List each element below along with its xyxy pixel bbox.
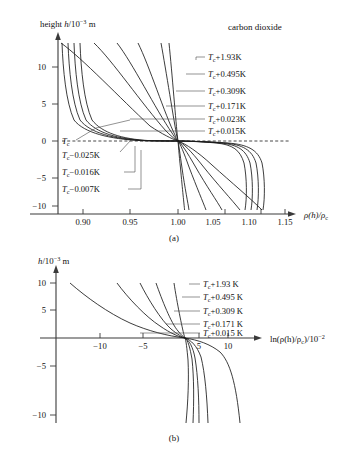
- panel-a-xtick-1-10: 1.10: [241, 217, 256, 227]
- curve-b-tc-plus-1-93: [70, 283, 240, 423]
- panel-a-ylabel: height h/10−3 m: [40, 18, 96, 29]
- panel-b-xtick-neg10: −10: [93, 341, 106, 351]
- panel-b-legend: Tc+1.93 K Tc+0.495 K Tc+0.309 K Tc+0.171…: [140, 279, 244, 339]
- legend-a-tc-minus-0-025: Tc−0.025K: [62, 140, 131, 161]
- legend-a-label-4: Tc+0.023K: [208, 114, 247, 125]
- panel-a-caption: (a): [169, 233, 179, 243]
- legend-a-label-2: Tc+0.309K: [208, 86, 247, 97]
- legend-b-item-2: Tc+0.309 K: [174, 306, 244, 317]
- legend-a-label-tc-minus-0-007: Tc−0.007K: [62, 184, 101, 195]
- panel-b-caption: (b): [169, 433, 179, 443]
- panel-a-xtick-1-05: 1.05: [205, 217, 220, 227]
- panel-b: h/10−3 m 10 5 −5 −10: [0, 245, 348, 463]
- panel-b-ytick-neg5: −5: [37, 361, 46, 371]
- curve-a-tc-plus-0-171: [138, 43, 206, 210]
- panel-a-ytick-neg10: −10: [33, 201, 46, 211]
- legend-b-item-1: Tc+0.495 K: [182, 292, 244, 303]
- panel-b-xtick-neg5: −5: [138, 341, 147, 351]
- panel-b-xlabel: ln(ρ(h)/ρc)/10−2: [270, 333, 325, 346]
- legend-a-item-1: Tc+0.495K: [186, 69, 247, 80]
- legend-b-label-0: Tc+1.93 K: [203, 279, 240, 290]
- panel-a-xtick-0-95: 0.95: [122, 217, 137, 227]
- legend-a-item-0: Tc+1.93K: [196, 52, 242, 63]
- panel-b-ytick-neg10: −10: [33, 410, 46, 420]
- legend-a-item-2: Tc+0.309K: [176, 86, 247, 97]
- panel-a-plot: carbon dioxide height h/10−3 m 10: [0, 0, 348, 245]
- panel-a-ytick-5: 5: [42, 99, 46, 109]
- curve-b-tc-plus-0-309: [140, 283, 199, 423]
- panel-a-xtick-0-90: 0.90: [75, 217, 90, 227]
- legend-a-item-3: Tc+0.171K: [166, 101, 247, 112]
- legend-b-label-2: Tc+0.309 K: [203, 306, 244, 317]
- substance-label: carbon dioxide: [228, 22, 282, 32]
- curve-a-tc-plus-0-309: [117, 43, 222, 210]
- curve-b-tc-plus-0-015: [174, 283, 188, 423]
- legend-a-label-1: Tc+0.495K: [208, 69, 247, 80]
- panel-a-legend-upper: Tc+1.93K Tc+0.495K Tc+0.309K Tc+0.171K T…: [120, 52, 247, 137]
- panel-b-curves: [70, 283, 240, 423]
- curve-a-tc-plus-0-023: [161, 43, 189, 210]
- panel-a-xtick-1-15: 1.15: [277, 217, 292, 227]
- panel-b-ytick-10: 10: [37, 278, 46, 288]
- panel-a-ytick-neg5: −5: [37, 173, 46, 183]
- panel-a-xtick-1-00: 1.00: [170, 217, 185, 227]
- panel-b-plot: h/10−3 m 10 5 −5 −10: [0, 245, 348, 463]
- legend-a-label-0: Tc+1.93K: [208, 52, 242, 63]
- legend-a-label-3: Tc+0.171K: [208, 101, 247, 112]
- figure-container: carbon dioxide height h/10−3 m 10: [0, 0, 348, 463]
- panel-b-ylabel: h/10−3 m: [38, 255, 69, 266]
- panel-a-ytick-10: 10: [37, 62, 46, 72]
- legend-b-item-0: Tc+1.93 K: [189, 279, 240, 290]
- panel-b-yticks: 10 5 −5 −10: [33, 278, 56, 420]
- panel-a-yticks: 10 5 0 −5 −10: [33, 62, 58, 211]
- panel-a: carbon dioxide height h/10−3 m 10: [0, 0, 348, 245]
- panel-a-xlabel: ρ(h)/ρc: [303, 210, 328, 221]
- panel-a-xticks: 0.90 0.95 1.00 1.05 1.10 1.15: [75, 209, 292, 227]
- legend-b-label-1: Tc+0.495 K: [203, 292, 244, 303]
- panel-a-ytick-0: 0: [42, 136, 46, 146]
- legend-a-item-5: Tc+0.015K: [120, 126, 247, 137]
- legend-a-label-tc-minus-0-025: Tc−0.025K: [62, 150, 101, 161]
- legend-a-label-5: Tc+0.015K: [208, 126, 247, 137]
- legend-a-label-tc-minus-0-016: Tc−0.016K: [62, 167, 101, 178]
- panel-b-ytick-5: 5: [42, 305, 46, 315]
- legend-a-label-tc: Tc: [62, 136, 70, 147]
- panel-b-xtick-10: 10: [224, 341, 233, 351]
